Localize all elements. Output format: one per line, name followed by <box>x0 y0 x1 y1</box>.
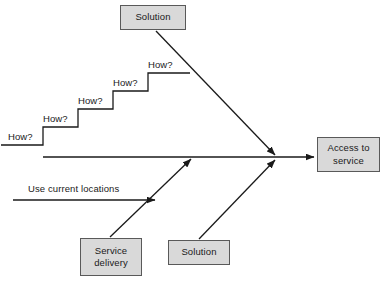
staircase-label-2: How? <box>43 113 68 124</box>
diagram-canvas: How? How? How? How? How? Use current loc… <box>0 0 386 284</box>
diagonal-from-solution-bottom <box>199 160 275 239</box>
use-current-locations-label: Use current locations <box>28 183 119 194</box>
staircase-label-4: How? <box>113 77 138 88</box>
staircase-label-1: How? <box>8 131 33 142</box>
service-delivery-box[interactable]: Service delivery <box>80 238 142 276</box>
solution-top-label: Solution <box>133 11 172 23</box>
staircase-label-5: How? <box>148 59 173 70</box>
access-to-service-box[interactable]: Access to service <box>317 137 380 172</box>
access-to-service-label: Access to service <box>325 142 371 166</box>
service-delivery-label: Service delivery <box>92 245 130 269</box>
solution-top-box[interactable]: Solution <box>120 5 186 30</box>
diagonal-from-solution-top <box>156 31 275 155</box>
solution-bottom-box[interactable]: Solution <box>168 240 230 265</box>
diagonal-from-service-delivery <box>110 159 191 237</box>
solution-bottom-label: Solution <box>179 246 218 258</box>
staircase-label-3: How? <box>78 95 103 106</box>
